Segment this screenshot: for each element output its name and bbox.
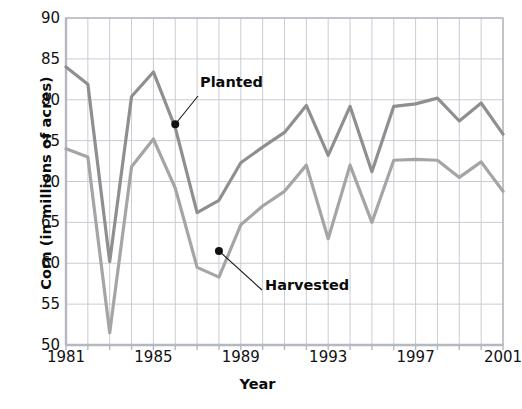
- x-axis-tick-label: 1985: [134, 348, 172, 366]
- annotation-point-planted: [171, 120, 179, 128]
- x-axis-tick-label: 1993: [309, 348, 347, 366]
- x-axis-tick-label: 2001: [484, 348, 522, 366]
- annotation-point-harvested: [215, 247, 223, 255]
- grid-lines: [66, 18, 503, 345]
- x-axis-tick-label: 1997: [397, 348, 435, 366]
- series-label-planted: Planted: [200, 74, 263, 90]
- x-axis-ticks: [66, 345, 503, 350]
- x-axis-tick-label: 1981: [47, 348, 85, 366]
- series-label-harvested: Harvested: [265, 277, 349, 293]
- annotation-leaders: [171, 96, 262, 290]
- x-axis-tick-label: 1989: [222, 348, 260, 366]
